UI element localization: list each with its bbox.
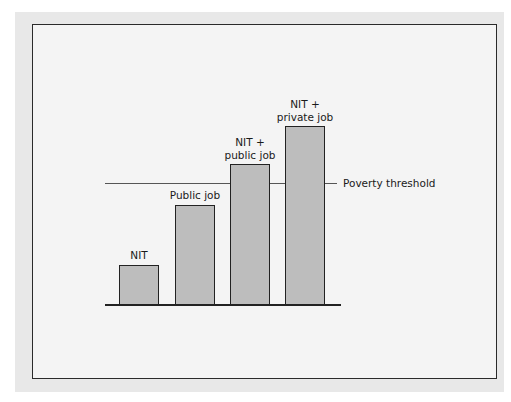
bar-nit <box>119 265 159 305</box>
x-axis-baseline <box>105 304 341 306</box>
bar-label-nit: NIT <box>109 249 169 262</box>
bar-label-public-job: Public job <box>160 189 230 202</box>
bar-nit-public-job <box>230 164 270 305</box>
bar-nit-private-job <box>285 126 325 305</box>
bar-chart: NIT Public job NIT + public job NIT + pr… <box>0 0 511 402</box>
poverty-threshold-label: Poverty threshold <box>343 177 436 190</box>
bar-public-job <box>175 205 215 305</box>
bar-label-nit-private-job: NIT + private job <box>270 98 340 124</box>
bar-label-nit-public-job: NIT + public job <box>215 136 285 162</box>
